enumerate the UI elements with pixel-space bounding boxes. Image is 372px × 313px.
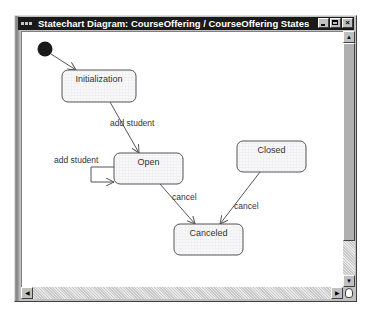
state-canceled[interactable]: Canceled: [174, 224, 243, 255]
vertical-scrollbar[interactable]: ▲ ▼: [343, 31, 355, 287]
title-bar[interactable]: Statechart Diagram: CourseOffering / Cou…: [18, 17, 354, 30]
statechart-window: Statechart Diagram: CourseOffering / Cou…: [14, 15, 357, 302]
transition-open-self-loop[interactable]: [91, 167, 114, 182]
transition-closed-to-canceled[interactable]: [220, 172, 260, 224]
state-label: Canceled: [189, 228, 227, 238]
state-label: Initialization: [75, 74, 122, 84]
transition-label[interactable]: add student: [54, 155, 99, 165]
window-menu-icon[interactable]: [21, 20, 35, 27]
state-label: Closed: [257, 145, 285, 155]
scroll-down-button[interactable]: ▼: [343, 275, 355, 287]
maximize-button[interactable]: [330, 18, 341, 28]
diagram-canvas[interactable]: Initialization Open Closed Canceled add …: [21, 31, 343, 287]
window-title: Statechart Diagram: CourseOffering / Cou…: [38, 18, 309, 29]
statechart-svg: Initialization Open Closed Canceled add …: [22, 32, 343, 287]
state-closed[interactable]: Closed: [237, 141, 306, 172]
horizontal-scrollbar[interactable]: ◀ ▶: [21, 287, 343, 299]
scroll-left-button[interactable]: ◀: [21, 287, 33, 299]
minimize-button[interactable]: [318, 18, 329, 28]
scroll-right-button[interactable]: ▶: [331, 287, 343, 299]
resize-corner[interactable]: [343, 287, 355, 299]
state-initialization[interactable]: Initialization: [62, 70, 136, 102]
mouse-cursor-icon: [345, 288, 353, 298]
transition-label[interactable]: cancel: [172, 192, 197, 202]
transition-label[interactable]: add student: [110, 118, 155, 128]
transition-label[interactable]: cancel: [234, 201, 259, 211]
vertical-scroll-thumb[interactable]: [343, 43, 355, 241]
state-label: Open: [137, 157, 159, 167]
scroll-up-button[interactable]: ▲: [343, 31, 355, 43]
transition-initial-to-initialization[interactable]: [51, 54, 76, 70]
transition-open-to-canceled[interactable]: [160, 184, 195, 224]
initial-state[interactable]: [38, 42, 53, 57]
close-button[interactable]: ×: [342, 18, 353, 28]
state-open[interactable]: Open: [114, 153, 183, 184]
